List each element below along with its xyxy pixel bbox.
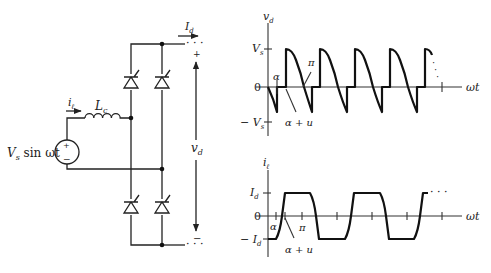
line-current-indicator: iℓ	[66, 96, 81, 111]
thyristor-bridge-circuit: + − Vs sin ωt Lc iℓ · · · · · ·	[7, 20, 204, 251]
waveform-continuation: · · ·	[430, 186, 447, 199]
alpha-u-leader-line	[285, 218, 294, 238]
line-current-label: iℓ	[68, 96, 75, 111]
x-axis-label: ωt	[466, 210, 480, 223]
ytick-label-id: Id	[249, 186, 259, 201]
node-dot	[160, 42, 165, 47]
output-plus: +	[193, 49, 201, 59]
source-minus: −	[63, 154, 71, 164]
output-voltage-chart: vd ωt Vs 0 − Vs · · · α π α + u	[240, 10, 480, 136]
alpha-label: α	[270, 221, 277, 232]
node-dot	[160, 243, 165, 248]
source-plus: +	[63, 141, 70, 150]
source-label: Vs sin ωt	[7, 146, 60, 162]
diagram-canvas: + − Vs sin ωt Lc iℓ · · · · · ·	[0, 0, 491, 273]
alpha-u-label: α + u	[285, 117, 313, 128]
y-axis-label: iℓ	[263, 156, 270, 171]
dc-current-label: Id	[184, 20, 194, 35]
inductor-label: Lc	[94, 99, 108, 115]
ytick-label-vs: Vs	[252, 42, 264, 57]
pi-label: π	[298, 222, 306, 233]
pi-label: π	[307, 57, 315, 68]
ytick-label-zero: 0	[254, 81, 261, 94]
node-dot	[160, 167, 165, 172]
output-minus: −	[193, 233, 201, 244]
source-top-wire	[67, 118, 85, 140]
vd-waveform	[268, 49, 432, 112]
dc-current-indicator: Id	[178, 20, 198, 36]
ytick-label-neg-id: − Id	[240, 233, 262, 248]
source-bottom-wire	[67, 164, 162, 169]
line-current-chart: iℓ ωt Id 0 − Id · · · α π α + u	[240, 156, 480, 257]
node-dot	[129, 116, 134, 121]
output-voltage-indicator: vd + −	[190, 49, 204, 244]
alpha-label: α	[273, 71, 280, 82]
ytick-label-zero: 0	[254, 210, 261, 223]
ac-source: + − Vs sin ωt	[7, 140, 79, 164]
x-axis-label: ωt	[466, 81, 480, 94]
alpha-u-label: α + u	[285, 244, 313, 255]
y-axis-label: vd	[263, 10, 274, 25]
inductor-coil-icon	[85, 114, 131, 118]
alpha-u-leader-line	[286, 89, 296, 112]
ytick-label-neg-vs: − Vs	[240, 116, 265, 131]
pi-leader-line	[303, 72, 311, 87]
inductor: Lc	[85, 99, 131, 118]
waveform-continuation: ·	[436, 71, 439, 82]
